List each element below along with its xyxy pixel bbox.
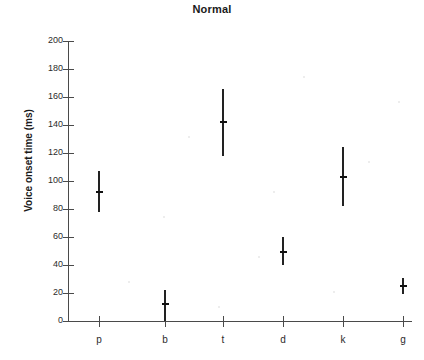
y-tick-mark <box>63 321 74 322</box>
scan-speck <box>128 281 130 283</box>
y-tick-mark <box>63 237 74 238</box>
y-tick-mark <box>63 97 74 98</box>
x-tick-label: b <box>150 334 180 345</box>
y-axis-title: Voice onset time (ms) <box>23 81 34 241</box>
chart-figure: Normal Voice onset time (ms) 02040608010… <box>0 0 424 360</box>
x-tick-label: d <box>268 334 298 345</box>
mean-marker <box>96 191 103 193</box>
scan-speck <box>303 76 305 78</box>
x-tick-label: g <box>388 334 418 345</box>
x-tick-mark <box>283 316 284 327</box>
plot-area: 020406080100120140160180200 pbtdkg <box>68 41 412 321</box>
y-tick-label: 160 <box>48 91 63 101</box>
y-tick-mark <box>63 125 74 126</box>
scan-speck <box>163 216 165 218</box>
mean-marker <box>162 303 169 305</box>
x-tick-label: k <box>328 334 358 345</box>
scan-speck <box>258 256 260 258</box>
mean-marker <box>280 251 287 253</box>
y-tick-label: 120 <box>48 147 63 157</box>
y-tick-mark <box>63 69 74 70</box>
y-tick-mark <box>63 265 74 266</box>
scan-speck <box>273 191 275 193</box>
chart-title: Normal <box>0 3 424 15</box>
scan-speck <box>333 291 335 293</box>
mean-marker <box>340 176 347 178</box>
scan-speck <box>188 136 190 138</box>
y-tick-label: 0 <box>58 315 63 325</box>
x-tick-mark <box>343 316 344 327</box>
y-tick-label: 80 <box>53 203 63 213</box>
y-tick-label: 60 <box>53 231 63 241</box>
x-tick-label: p <box>84 334 114 345</box>
y-tick-label: 20 <box>53 287 63 297</box>
y-tick-mark <box>63 181 74 182</box>
x-tick-mark <box>403 316 404 327</box>
y-tick-label: 100 <box>48 175 63 185</box>
scan-speck <box>398 101 400 103</box>
mean-marker <box>400 285 407 287</box>
mean-marker <box>220 121 227 123</box>
y-tick-mark <box>63 41 74 42</box>
y-tick-mark <box>63 209 74 210</box>
y-tick-label: 200 <box>48 35 63 45</box>
x-axis-line <box>68 321 412 322</box>
y-tick-mark <box>63 153 74 154</box>
y-tick-label: 40 <box>53 259 63 269</box>
error-bar-range <box>164 290 166 321</box>
y-tick-label: 180 <box>48 63 63 73</box>
x-tick-mark <box>99 316 100 327</box>
y-tick-label: 140 <box>48 119 63 129</box>
scan-speck <box>368 161 370 163</box>
x-tick-label: t <box>208 334 238 345</box>
scan-speck <box>218 306 220 308</box>
y-tick-mark <box>63 293 74 294</box>
x-tick-mark <box>223 316 224 327</box>
